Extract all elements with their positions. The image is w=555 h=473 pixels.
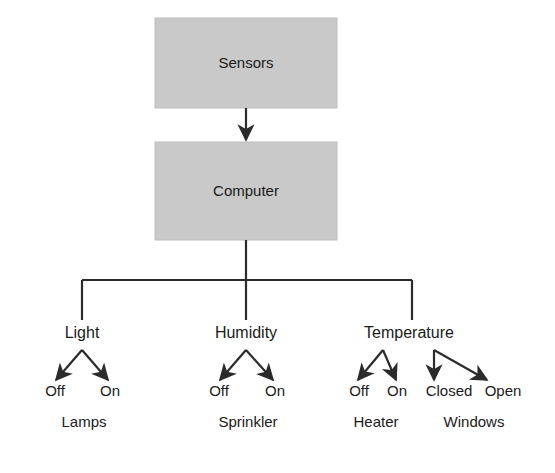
labels-layer: LightOffOnLampsHumidityOffOnSprinklerTem…	[45, 324, 521, 430]
state-label-light-0: Off	[45, 382, 66, 399]
device-label-humidity-0: Sprinkler	[218, 413, 277, 430]
box-label-sensors: Sensors	[218, 54, 273, 71]
state-label-temperature-0: Off	[349, 382, 370, 399]
branch-arrow-humidity-2	[220, 350, 246, 380]
branch-label-humidity: Humidity	[215, 324, 277, 341]
state-label-humidity-1: On	[265, 382, 285, 399]
flowchart-diagram: SensorsComputer LightOffOnLampsHumidityO…	[0, 0, 555, 473]
state-label-temperature-1: On	[387, 382, 407, 399]
box-label-computer: Computer	[213, 182, 279, 199]
state-label-temperature-3: Open	[485, 382, 522, 399]
state-label-humidity-0: Off	[209, 382, 230, 399]
flowchart-canvas: SensorsComputer LightOffOnLampsHumidityO…	[0, 0, 555, 473]
branch-label-temperature: Temperature	[364, 324, 454, 341]
state-label-temperature-2: Closed	[426, 382, 473, 399]
device-label-light-0: Lamps	[61, 413, 106, 430]
device-label-temperature-1: Windows	[444, 413, 505, 430]
branch-label-light: Light	[65, 324, 100, 341]
branch-arrow-temperature-4	[358, 350, 383, 380]
box-sensors: Sensors	[155, 18, 337, 108]
branch-arrow-humidity-3	[246, 350, 273, 380]
branch-arrows-layer	[56, 350, 487, 380]
branch-arrow-light-0	[56, 350, 82, 380]
state-label-light-1: On	[100, 382, 120, 399]
box-computer: Computer	[155, 142, 337, 240]
branch-arrow-temperature-5	[383, 350, 396, 380]
branch-arrow-temperature-7	[434, 350, 487, 380]
branch-arrow-light-1	[82, 350, 108, 380]
device-label-temperature-0: Heater	[353, 413, 398, 430]
